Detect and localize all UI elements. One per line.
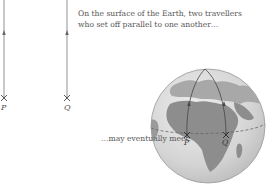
globe-label-q: Q — [222, 138, 228, 147]
flat-path-p — [1, 0, 7, 101]
caption-top: On the surface of the Earth, two travell… — [78, 9, 242, 30]
caption-top-line1: On the surface of the Earth, two travell… — [78, 9, 242, 20]
globe — [151, 69, 265, 183]
caption-bottom: …may eventually meet: — [101, 134, 191, 145]
flat-label-p: P — [1, 103, 6, 112]
globe-label-p: P — [184, 138, 189, 147]
flat-path-q — [64, 0, 70, 101]
flat-label-q: Q — [64, 103, 71, 112]
caption-top-line2: who set off parallel to one another… — [78, 20, 242, 31]
